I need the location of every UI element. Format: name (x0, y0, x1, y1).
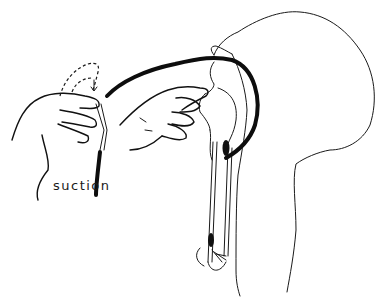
illustration-canvas: suction (0, 0, 380, 298)
line-drawing (0, 0, 380, 298)
airway-tubes (197, 142, 232, 270)
suction-label: suction (53, 178, 111, 193)
oral-cavity (199, 88, 236, 160)
right-hand (120, 87, 208, 150)
